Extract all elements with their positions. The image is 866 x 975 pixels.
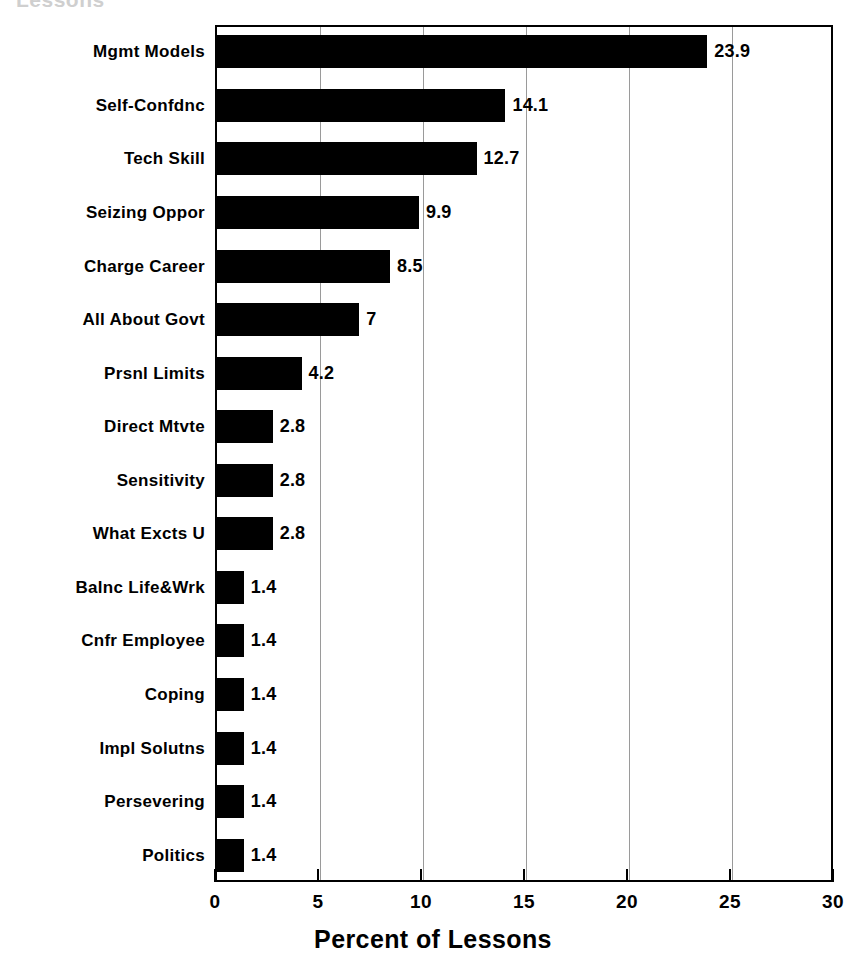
- x-axis-tick-mark: [420, 869, 422, 882]
- bar-row[interactable]: 1.4: [215, 732, 276, 765]
- bar[interactable]: [215, 732, 244, 765]
- bar-value-label: 1.4: [251, 738, 277, 759]
- x-axis-tick-mark: [214, 869, 216, 882]
- bar-value-label: 12.7: [484, 148, 520, 169]
- bar[interactable]: [215, 35, 707, 68]
- bar[interactable]: [215, 571, 244, 604]
- bar[interactable]: [215, 410, 273, 443]
- x-axis-tick-label: 5: [312, 891, 323, 913]
- category-label: Coping: [0, 678, 205, 711]
- category-label: Self-Confdnc: [0, 89, 205, 122]
- x-axis-tick-label: 30: [822, 891, 844, 913]
- x-axis-tick-label: 25: [719, 891, 741, 913]
- x-axis-title: Percent of Lessons: [0, 925, 866, 954]
- bar-row[interactable]: 2.8: [215, 410, 305, 443]
- bar[interactable]: [215, 196, 419, 229]
- bar-row[interactable]: 7: [215, 303, 376, 336]
- bar-row[interactable]: 8.5: [215, 250, 423, 283]
- bar-value-label: 23.9: [714, 41, 750, 62]
- bar[interactable]: [215, 142, 477, 175]
- bar-value-label: 1.4: [251, 684, 277, 705]
- bar-value-label: 2.8: [280, 523, 306, 544]
- category-label: Seizing Oppor: [0, 196, 205, 229]
- bar-value-label: 9.9: [426, 202, 452, 223]
- bar-row[interactable]: 1.4: [215, 624, 276, 657]
- bar-row[interactable]: 4.2: [215, 357, 334, 390]
- bar[interactable]: [215, 624, 244, 657]
- bar-value-label: 2.8: [280, 416, 306, 437]
- bar[interactable]: [215, 785, 244, 818]
- bar-row[interactable]: 9.9: [215, 196, 452, 229]
- bar-value-label: 4.2: [309, 363, 335, 384]
- x-axis-tick-mark: [832, 869, 834, 882]
- x-axis-tick-label: 15: [513, 891, 535, 913]
- bar-value-label: 1.4: [251, 577, 277, 598]
- bar-value-label: 1.4: [251, 630, 277, 651]
- x-axis-tick-mark: [523, 869, 525, 882]
- bar-row[interactable]: 1.4: [215, 839, 276, 872]
- x-axis-tick-mark: [317, 869, 319, 882]
- bar-row[interactable]: 23.9: [215, 35, 750, 68]
- category-label: What Excts U: [0, 517, 205, 550]
- category-label: Tech Skill: [0, 142, 205, 175]
- category-label: Charge Career: [0, 250, 205, 283]
- bar[interactable]: [215, 89, 505, 122]
- category-label: Sensitivity: [0, 464, 205, 497]
- bar-row[interactable]: 12.7: [215, 142, 519, 175]
- category-label: Mgmt Models: [0, 35, 205, 68]
- bar[interactable]: [215, 839, 244, 872]
- bar-chart: Lessons 23.914.112.79.98.574.22.82.82.81…: [0, 0, 866, 975]
- bar-value-label: 7: [366, 309, 376, 330]
- x-axis-tick-mark: [626, 869, 628, 882]
- category-label: Cnfr Employee: [0, 624, 205, 657]
- x-axis-tick-label: 20: [616, 891, 638, 913]
- bar-row[interactable]: 2.8: [215, 517, 305, 550]
- bar[interactable]: [215, 517, 273, 550]
- bar-value-label: 1.4: [251, 791, 277, 812]
- x-axis-tick-label: 0: [209, 891, 220, 913]
- chart-title: Lessons: [16, 0, 105, 8]
- bar-value-label: 14.1: [512, 95, 548, 116]
- x-axis-tick-mark: [729, 869, 731, 882]
- bar-row[interactable]: 1.4: [215, 678, 276, 711]
- bar-value-label: 8.5: [397, 256, 423, 277]
- bar-value-label: 2.8: [280, 470, 306, 491]
- bar[interactable]: [215, 250, 390, 283]
- category-axis-labels: Mgmt ModelsSelf-ConfdncTech SkillSeizing…: [0, 25, 205, 882]
- bar-value-label: 1.4: [251, 845, 277, 866]
- category-label: All About Govt: [0, 303, 205, 336]
- category-label: Balnc Life&Wrk: [0, 571, 205, 604]
- category-label: Impl Solutns: [0, 732, 205, 765]
- bar[interactable]: [215, 464, 273, 497]
- bar[interactable]: [215, 357, 302, 390]
- bar[interactable]: [215, 678, 244, 711]
- category-label: Direct Mtvte: [0, 410, 205, 443]
- bar-row[interactable]: 2.8: [215, 464, 305, 497]
- category-label: Prsnl Limits: [0, 357, 205, 390]
- category-label: Persevering: [0, 785, 205, 818]
- category-label: Politics: [0, 839, 205, 872]
- bars-group: 23.914.112.79.98.574.22.82.82.81.41.41.4…: [215, 25, 833, 882]
- x-axis-tick-label: 10: [410, 891, 432, 913]
- bar[interactable]: [215, 303, 359, 336]
- bar-row[interactable]: 1.4: [215, 571, 276, 604]
- bar-row[interactable]: 1.4: [215, 785, 276, 818]
- bar-row[interactable]: 14.1: [215, 89, 548, 122]
